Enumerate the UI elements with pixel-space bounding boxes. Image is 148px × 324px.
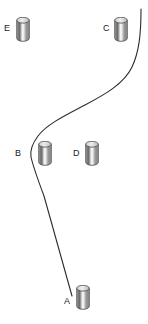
cylinder-c (114, 17, 128, 42)
marker-label-d: D (73, 149, 80, 158)
path-layer (0, 0, 148, 324)
cylinder-b (38, 141, 52, 166)
marker-label-b: B (15, 149, 21, 158)
cylinder-a (76, 285, 90, 310)
marker-label-c: C (103, 24, 110, 33)
cylinder-d (85, 141, 99, 166)
marker-label-a: A (64, 297, 70, 306)
diagram-canvas: A B C D E (0, 0, 148, 324)
marker-label-e: E (4, 24, 10, 33)
cylinder-e (16, 17, 30, 42)
